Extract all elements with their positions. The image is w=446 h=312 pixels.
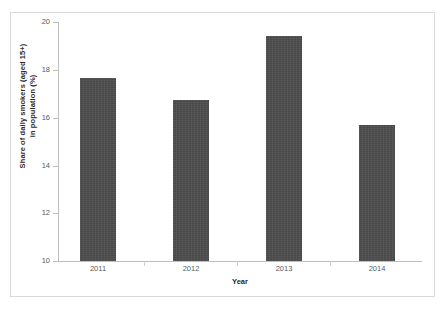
bar-2011 <box>80 78 116 261</box>
x-axis-line <box>58 261 422 262</box>
cut-off-chart-title: · <box>0 0 446 7</box>
y-tick-label-12: 12 <box>28 209 50 217</box>
x-tick-label-2011: 2011 <box>68 264 128 274</box>
x-tick-label-2012: 2012 <box>161 264 221 274</box>
bar-2012 <box>173 100 209 261</box>
y-tick-label-10: 10 <box>28 257 50 265</box>
y-tick-mark-14 <box>53 166 58 167</box>
y-axis-title-line1: Share of daily smokers (aged 15+) <box>18 11 28 201</box>
cut-off-title-text: · <box>222 0 225 3</box>
y-tick-mark-18 <box>53 70 58 71</box>
x-tick-mark-1 <box>144 261 145 266</box>
y-axis-line <box>58 22 59 262</box>
bar-2014 <box>359 125 395 261</box>
x-tick-label-2013: 2013 <box>254 264 314 274</box>
x-tick-mark-3 <box>330 261 331 266</box>
x-axis-title: Year <box>58 277 422 286</box>
bar-2013 <box>266 36 302 261</box>
x-tick-label-2014: 2014 <box>347 264 407 274</box>
y-axis-title-line2: in population (%) <box>28 11 38 201</box>
y-tick-mark-10 <box>53 261 58 262</box>
chart-figure: · 10 12 14 16 18 20 2011 2012 2013 2014 … <box>0 0 446 312</box>
y-tick-mark-16 <box>53 118 58 119</box>
y-tick-mark-12 <box>53 213 58 214</box>
x-tick-mark-2 <box>237 261 238 266</box>
y-tick-label-12-wrap: 12 <box>28 209 50 217</box>
y-axis-title: Share of daily smokers (aged 15+) in pop… <box>18 11 38 201</box>
y-tick-label-10-wrap: 10 <box>28 257 50 265</box>
y-tick-mark-20 <box>53 22 58 23</box>
